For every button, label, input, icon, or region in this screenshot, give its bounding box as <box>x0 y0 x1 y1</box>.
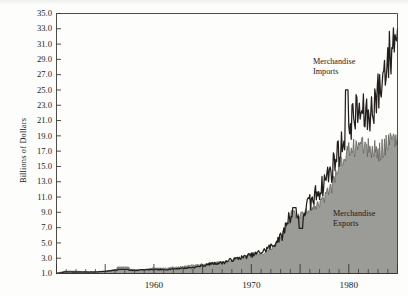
exports-label-line1: Merchandise <box>333 209 375 219</box>
y-axis-ticks <box>57 14 62 274</box>
chart-figure: Billions of Dollars 35.033.031.029.027.0… <box>0 0 408 296</box>
plot-canvas <box>0 0 408 296</box>
imports-label-line1: Merchandise <box>313 57 355 67</box>
merchandise-exports-label: Merchandise Exports <box>333 209 375 229</box>
merchandise-imports-label: Merchandise Imports <box>313 57 355 77</box>
imports-label-line2: Imports <box>313 67 355 77</box>
exports-label-line2: Exports <box>333 219 375 229</box>
